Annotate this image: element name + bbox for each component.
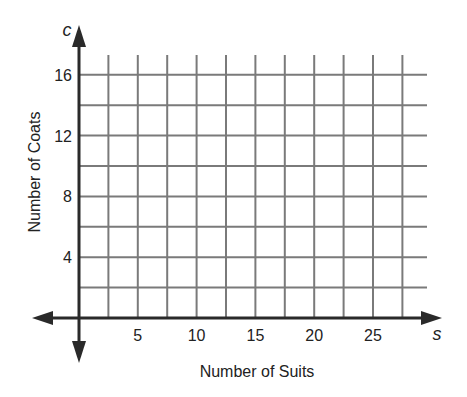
y-axis-title: Number of Coats: [26, 112, 43, 233]
x-tick-label: 10: [188, 327, 206, 344]
x-tick-label: 20: [305, 327, 323, 344]
x-tick-labels: 510152025: [133, 327, 382, 344]
y-tick-label: 4: [63, 249, 72, 266]
y-tick-label: 16: [54, 67, 72, 84]
y-axis-up-arrow-icon: [72, 25, 86, 47]
grid-lines: [79, 55, 427, 318]
x-axis-title: Number of Suits: [200, 363, 315, 380]
y-tick-label: 8: [63, 188, 72, 205]
x-axis-right-arrow-icon: [421, 311, 442, 325]
x-tick-label: 15: [247, 327, 265, 344]
x-variable-label: s: [433, 324, 442, 344]
x-axis-left-arrow-icon: [32, 311, 53, 325]
y-tick-label: 12: [54, 128, 72, 145]
x-tick-label: 5: [133, 327, 142, 344]
y-tick-labels: 481216: [54, 67, 72, 266]
y-variable-label: c: [63, 20, 72, 40]
x-tick-label: 25: [364, 327, 382, 344]
y-axis-down-arrow-icon: [72, 341, 86, 363]
coordinate-grid-chart: 510152025 481216 c s Number of Suits Num…: [0, 0, 467, 397]
